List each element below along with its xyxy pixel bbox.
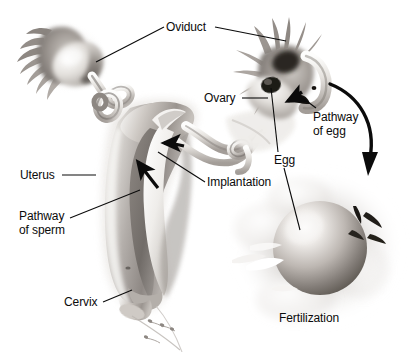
uterus-fleck [125, 266, 130, 269]
label-implantation: Implantation [207, 176, 271, 189]
figure-canvas: Oviduct Ovary Pathway of egg Egg Uterus … [0, 0, 412, 352]
arrow-egg-head [362, 152, 378, 176]
ovum-sphere [273, 201, 367, 295]
caption-fertilization: Fertilization [279, 312, 339, 325]
label-egg: Egg [274, 154, 295, 167]
label-pathway-of-egg-line2: of egg [313, 125, 358, 139]
label-cervix: Cervix [64, 296, 97, 309]
fertilization-scene [232, 174, 400, 322]
label-uterus: Uterus [20, 169, 55, 182]
vaginal-wall-upper [132, 316, 180, 350]
tube-fleck [312, 86, 317, 90]
follicle-highlight [264, 79, 272, 85]
label-pathway-of-egg-line1: Pathway [313, 111, 358, 125]
sperm-tail-3 [146, 338, 160, 343]
uterus-cross-section [102, 99, 196, 322]
label-ovary: Ovary [204, 92, 236, 105]
label-pathway-of-sperm-line1: Pathway [19, 210, 65, 224]
sperm-heads-vagina [143, 319, 174, 340]
label-oviduct: Oviduct [166, 21, 206, 34]
leader-oviduct-left [96, 27, 164, 62]
oviduct-left-group [17, 22, 133, 121]
label-pathway-of-egg: Pathway of egg [313, 111, 358, 138]
oviduct-right-group [176, 17, 326, 172]
label-pathway-of-sperm-line2: of sperm [19, 224, 65, 238]
anatomical-illustration [0, 0, 412, 352]
label-pathway-of-sperm: Pathway of sperm [19, 210, 65, 237]
vaginal-wall-lower [156, 306, 182, 352]
